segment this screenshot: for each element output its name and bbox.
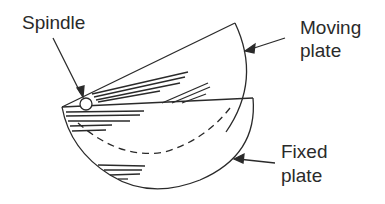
spindle-icon — [80, 98, 92, 110]
fixed-plate-label-1: Fixed — [281, 141, 327, 163]
fixed-plate-arrow — [234, 154, 275, 163]
moving-plate-arrow — [245, 38, 285, 53]
spindle-label: Spindle — [22, 12, 85, 34]
fixed-plate — [62, 98, 253, 189]
fixed-plate-label-2: plate — [281, 165, 322, 187]
moving-plate-label-2: plate — [300, 40, 341, 62]
moving-plate-label-1: Moving — [300, 17, 361, 39]
spindle-arrow — [53, 38, 84, 97]
